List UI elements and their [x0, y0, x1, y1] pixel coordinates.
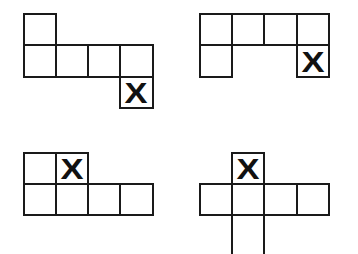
net-cell — [199, 44, 233, 78]
net-cell — [296, 183, 330, 216]
net-cell — [199, 183, 233, 216]
net-cell-clipped — [231, 214, 265, 254]
x-mark: X — [236, 154, 259, 184]
net-cell — [23, 44, 57, 78]
net-cell-marked: X — [231, 152, 265, 185]
net-cell-marked: X — [55, 152, 89, 185]
net-top-right: X — [199, 13, 330, 78]
net-cell — [231, 13, 265, 46]
net-cell — [231, 183, 265, 216]
net-cell — [263, 183, 298, 216]
net-cell — [263, 13, 298, 46]
net-cell — [55, 183, 89, 216]
net-bottom-right: X — [199, 152, 330, 241]
net-bottom-left: X — [23, 152, 154, 216]
net-cell — [23, 152, 57, 185]
x-mark: X — [301, 47, 324, 77]
x-mark: X — [125, 78, 148, 108]
net-cell — [55, 44, 89, 78]
net-cell — [87, 183, 121, 216]
net-cell-marked: X — [296, 44, 330, 78]
net-cell-marked: X — [119, 76, 154, 109]
net-cell — [23, 13, 57, 46]
net-cell — [119, 183, 154, 216]
net-cell — [199, 13, 233, 46]
net-cell — [87, 44, 121, 78]
net-cell — [23, 183, 57, 216]
net-cell — [296, 13, 330, 46]
net-top-left: X — [23, 13, 153, 109]
net-cell — [119, 44, 154, 78]
x-mark: X — [60, 154, 83, 184]
